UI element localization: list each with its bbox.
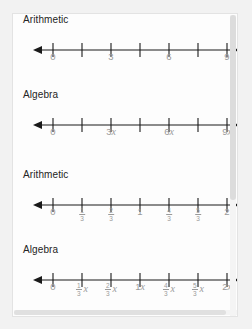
tick-label: 1 — [137, 207, 142, 217]
tick-label: 23 — [108, 207, 114, 222]
vertical-scrollbar[interactable] — [230, 15, 236, 317]
horizontal-scrollbar-thumb[interactable] — [14, 310, 226, 315]
tick-label: 3x — [106, 127, 116, 138]
tick-label: 3 — [108, 52, 113, 62]
horizontal-scrollbar[interactable] — [14, 310, 238, 315]
tick-label: 0 — [50, 127, 55, 137]
tick-label: 43 — [166, 207, 172, 222]
tick-label: 43 x — [163, 282, 175, 297]
tick-labels-arithmetic-thirds: 01323143532 — [13, 207, 238, 233]
tick-label: 53 — [195, 207, 201, 222]
tick-label: 0 — [50, 282, 55, 292]
tick-label: 23 x — [105, 282, 117, 297]
tick-labels-algebra-whole: 03x6x9x — [13, 127, 238, 153]
vertical-scrollbar-thumb[interactable] — [230, 15, 236, 200]
block-label-algebra-whole: Algebra — [23, 89, 58, 100]
tick-label: 13 — [79, 207, 85, 222]
number-line-block-arithmetic-whole: Arithmetic0369 — [13, 14, 238, 89]
tick-label: 6 — [166, 52, 171, 62]
document-viewer[interactable]: Arithmetic0369Algebra03x6x9x Arithmetic0… — [12, 13, 238, 317]
number-line-block-algebra-whole: Algebra03x6x9x — [13, 89, 238, 164]
tick-label: 53 x — [192, 282, 204, 297]
tick-label: 6x — [164, 127, 174, 138]
group-whole-numbers: Arithmetic0369Algebra03x6x9x — [13, 14, 238, 164]
tick-labels-algebra-thirds: 013 x23 x1x43 x53 x2x — [13, 282, 238, 308]
tick-label: 13 x — [76, 282, 88, 297]
tick-labels-arithmetic-whole: 0369 — [13, 52, 238, 78]
number-line-block-arithmetic-thirds: Arithmetic01323143532 — [13, 169, 238, 244]
block-label-arithmetic-whole: Arithmetic — [23, 14, 68, 25]
tick-label: 9 — [224, 52, 229, 62]
tick-label: 2 — [224, 207, 229, 217]
number-line-block-algebra-thirds: Algebra013 x23 x1x43 x53 x2x — [13, 244, 238, 317]
block-label-arithmetic-thirds: Arithmetic — [23, 169, 68, 180]
group-thirds: Arithmetic01323143532Algebra013 x23 x1x4… — [13, 169, 238, 317]
tick-label: 0 — [50, 52, 55, 62]
tick-label: 0 — [50, 207, 55, 217]
tick-label: 1x — [135, 282, 145, 293]
worksheet-page: Arithmetic0369Algebra03x6x9x Arithmetic0… — [13, 14, 238, 317]
block-label-algebra-thirds: Algebra — [23, 244, 58, 255]
